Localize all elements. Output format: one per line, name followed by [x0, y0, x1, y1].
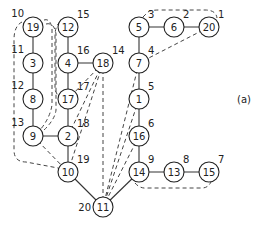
graph-node: 74 [129, 45, 154, 73]
node-id: 17 [62, 94, 75, 105]
graph-node: 1215 [58, 9, 90, 37]
graph-node: 416 [58, 45, 90, 73]
node-id: 13 [168, 167, 181, 178]
graph-node: 1814 [93, 45, 125, 73]
graph-node: 15 [129, 81, 154, 109]
node-id: 19 [27, 22, 40, 33]
node-order-label: 2 [183, 9, 189, 20]
node-id: 3 [30, 58, 36, 69]
graph-node: 149 [129, 154, 154, 182]
node-id: 20 [203, 22, 216, 33]
node-id: 16 [133, 131, 146, 142]
node-id: 2 [65, 131, 71, 142]
node-order-label: 4 [148, 45, 154, 56]
node-order-label: 12 [11, 80, 24, 91]
node-id: 14 [133, 167, 146, 178]
node-order-label: 20 [78, 202, 91, 213]
graph-node: 913 [11, 117, 43, 146]
graph-node: 62 [164, 9, 189, 37]
node-order-label: 17 [77, 81, 90, 92]
node-order-label: 5 [148, 81, 154, 92]
node-id: 5 [136, 22, 142, 33]
node-order-label: 3 [148, 9, 154, 20]
graph-node: 201 [199, 9, 224, 37]
node-id: 11 [97, 202, 110, 213]
graph-node: 311 [11, 44, 43, 73]
graph-node: 218 [58, 118, 90, 146]
dashed-edge [103, 99, 139, 207]
node-order-label: 1 [218, 9, 224, 20]
node-order-label: 14 [112, 45, 125, 56]
node-id: 1 [136, 94, 142, 105]
node-order-label: 13 [11, 117, 24, 128]
node-id: 18 [97, 58, 110, 69]
node-id: 12 [62, 22, 75, 33]
graph-node: 53 [129, 9, 154, 37]
graph-node: 1717 [58, 81, 90, 109]
graph-node: 812 [11, 80, 43, 109]
node-id: 4 [65, 58, 71, 69]
graph-node: 157 [199, 154, 224, 182]
node-order-label: 11 [11, 44, 24, 55]
dashed-loop-bottom-right [135, 182, 211, 188]
node-order-label: 15 [77, 9, 90, 20]
node-order-label: 18 [77, 118, 90, 129]
node-id: 6 [171, 22, 177, 33]
node-order-label: 19 [77, 154, 90, 165]
node-order-label: 9 [148, 154, 154, 165]
graph-node: 1910 [11, 8, 43, 37]
node-order-label: 16 [77, 45, 90, 56]
graph-node: 1120 [78, 197, 113, 217]
node-order-label: 8 [183, 154, 189, 165]
node-id: 10 [62, 167, 75, 178]
figure-caption: (a) [237, 94, 251, 105]
node-order-label: 6 [148, 118, 154, 129]
dashed-loop-left-inner-a [40, 20, 52, 130]
graph-diagram: 1910311812913121541617172181019181411205… [0, 0, 266, 233]
node-id: 7 [136, 58, 142, 69]
node-id: 9 [30, 131, 36, 142]
node-order-label: 10 [11, 8, 24, 19]
node-id: 15 [203, 167, 216, 178]
node-id: 8 [30, 94, 36, 105]
graph-node: 1019 [58, 154, 90, 182]
graph-node: 138 [164, 154, 189, 182]
node-order-label: 7 [218, 154, 224, 165]
graph-node: 166 [129, 118, 154, 146]
nodes: 1910311812913121541617172181019181411205… [11, 8, 224, 217]
